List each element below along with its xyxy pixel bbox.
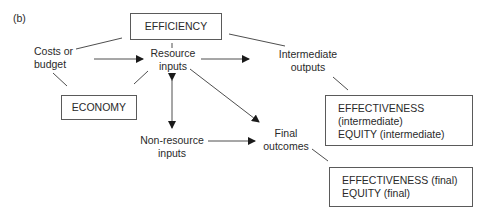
effectiveness-intermediate-box: EFFECTIVENESS (intermediate) EQUITY (int… — [325, 95, 473, 146]
resource-inputs-line1: Resource — [146, 47, 200, 60]
resource-inputs-node: Resource inputs — [146, 47, 200, 73]
figure-label: (b) — [13, 12, 26, 25]
link-final-box — [312, 149, 328, 161]
link-costs-economy — [53, 73, 67, 86]
effectiveness-intermediate-line1: EFFECTIVENESS — [338, 102, 472, 115]
final-outcomes-node: Final outcomes — [260, 127, 312, 153]
effectiveness-final-line: EFFECTIVENESS (final) — [342, 174, 472, 187]
link-efficiency-intermediate — [229, 34, 285, 46]
non-resource-inputs-line1: Non-resource — [134, 134, 210, 147]
non-resource-inputs-line2: inputs — [134, 147, 210, 160]
final-outcomes-line1: Final — [260, 127, 312, 140]
equity-final-line: EQUITY (final) — [342, 187, 472, 200]
intermediate-outputs-line1: Intermediate — [274, 48, 342, 61]
link-intermediate-box — [333, 77, 348, 90]
effectiveness-intermediate-line2: (intermediate) — [338, 115, 472, 128]
economy-label: ECONOMY — [72, 101, 126, 114]
economy-box: ECONOMY — [61, 95, 137, 120]
diagram-canvas: (b) EFFICIENCY ECONOMY EFFECTIVENESS (in… — [0, 0, 492, 219]
costs-node: Costs or budget — [34, 45, 73, 71]
link-costs-efficiency — [76, 38, 122, 49]
arrow-resource-final — [190, 69, 259, 122]
non-resource-inputs-node: Non-resource inputs — [134, 134, 210, 160]
efficiency-box: EFFICIENCY — [130, 13, 222, 40]
resource-inputs-line2: inputs — [146, 60, 200, 73]
equity-intermediate-line: EQUITY (intermediate) — [338, 128, 472, 141]
intermediate-outputs-line2: outputs — [274, 61, 342, 74]
efficiency-label: EFFICIENCY — [145, 20, 207, 33]
costs-line1: Costs or — [34, 45, 73, 58]
effectiveness-final-box: EFFECTIVENESS (final) EQUITY (final) — [329, 167, 473, 207]
intermediate-outputs-node: Intermediate outputs — [274, 48, 342, 74]
final-outcomes-line2: outcomes — [260, 140, 312, 153]
costs-line2: budget — [34, 58, 73, 71]
